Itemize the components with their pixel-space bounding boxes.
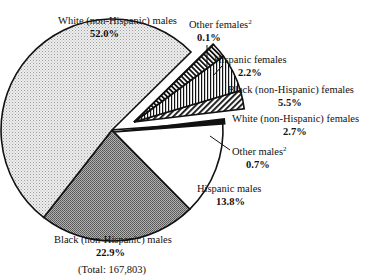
pct-black-males: 22.9% bbox=[96, 247, 125, 258]
pct-white-males: 52.0% bbox=[90, 28, 119, 39]
label-hispanic-males: Hispanic males bbox=[197, 183, 261, 194]
pie-slices bbox=[1, 19, 244, 241]
pct-white-females: 2.7% bbox=[283, 126, 307, 137]
label-other-females-sup: 2 bbox=[248, 18, 252, 26]
label-black-males: Black (non-Hispanic) males bbox=[54, 234, 172, 246]
pct-hispanic-females: 2.2% bbox=[238, 67, 262, 78]
pct-hispanic-males: 13.8% bbox=[216, 196, 245, 207]
label-other-females-text: Other females bbox=[189, 19, 248, 30]
label-white-males: White (non-Hispanic) males bbox=[58, 15, 177, 27]
label-other-females: Other females2 bbox=[189, 18, 252, 30]
label-white-females: White (non-Hispanic) females bbox=[232, 113, 359, 125]
pct-other-males: 0.7% bbox=[246, 159, 270, 170]
total-label: (Total: 167,803) bbox=[78, 264, 147, 276]
pct-black-females: 5.5% bbox=[278, 97, 302, 108]
label-black-females: Black (non-Hispanic) females bbox=[228, 84, 354, 96]
pct-other-females: 0.1% bbox=[197, 32, 221, 43]
label-other-males-text: Other males bbox=[232, 146, 283, 157]
label-other-males-sup: 2 bbox=[283, 145, 287, 153]
label-other-males: Other males2 bbox=[232, 145, 287, 157]
label-hispanic-females: Hispanic females bbox=[214, 54, 287, 65]
pie-chart: White (non-Hispanic) males 52.0% Other f… bbox=[0, 0, 374, 277]
